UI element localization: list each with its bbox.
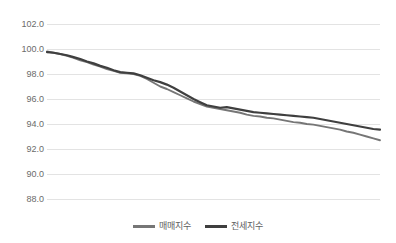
legend-item[interactable]: 매매지수 (133, 221, 191, 232)
legend-label: 전세지수 (231, 221, 263, 232)
series-layer (0, 0, 396, 212)
legend-item[interactable]: 전세지수 (205, 221, 263, 232)
line-chart: 102.0100.098.096.094.092.090.088.0 매매지수전… (0, 0, 396, 243)
plot-area: 102.0100.098.096.094.092.090.088.0 (0, 0, 396, 212)
legend-line-icon (133, 225, 155, 228)
series-line (47, 52, 380, 130)
legend-label: 매매지수 (159, 221, 191, 232)
chart-legend: 매매지수전세지수 (0, 210, 396, 243)
legend-line-icon (205, 225, 227, 228)
